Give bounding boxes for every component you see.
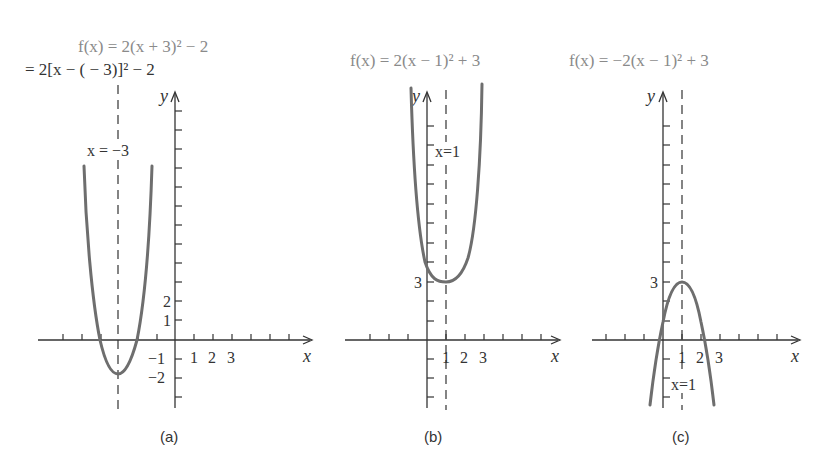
- x-ticks-b: [370, 334, 541, 340]
- equation-a-line2: = 2[x − ( − 3)]² − 2: [25, 60, 155, 79]
- y-tick-label-3: 3: [650, 274, 658, 291]
- equation-b: f(x) = 2(x − 1)² + 3: [350, 51, 480, 70]
- caption-b: (b): [424, 428, 442, 445]
- x-tick-label-2: 2: [208, 349, 216, 366]
- y-axis-label: y: [645, 86, 655, 106]
- y-ticks-c: [663, 126, 670, 397]
- x-tick-label-3: 3: [227, 349, 235, 366]
- x-tick-label-3: 3: [715, 349, 723, 366]
- axis-label-b: x=1: [435, 143, 460, 160]
- y-axis-label: y: [158, 86, 168, 106]
- panel-a: f(x) = 2(x + 3)² − 2 = 2[x − ( − 3)]² − …: [25, 37, 312, 445]
- y-tick-label-neg2: −2: [148, 369, 165, 386]
- parabola-figure: f(x) = 2(x + 3)² − 2 = 2[x − ( − 3)]² − …: [0, 0, 821, 476]
- y-ticks-b: [427, 126, 434, 397]
- x-tick-label-2: 2: [460, 349, 468, 366]
- panel-b: f(x) = 2(x − 1)² + 3: [345, 51, 560, 445]
- y-tick-label-2: 2: [163, 293, 171, 310]
- y-tick-label-neg1: −1: [148, 350, 165, 367]
- y-ticks-a: [175, 111, 182, 397]
- x-ticks-c: [606, 334, 777, 340]
- x-tick-label-1: 1: [190, 349, 198, 366]
- equation-c: f(x) = −2(x − 1)² + 3: [569, 51, 709, 70]
- x-tick-label-3: 3: [479, 349, 487, 366]
- x-tick-label-2: 2: [696, 349, 704, 366]
- y-tick-label-1: 1: [163, 312, 171, 329]
- caption-a: (a): [160, 428, 178, 445]
- x-axis-label: x: [302, 346, 311, 366]
- panel-c: f(x) = −2(x − 1)² + 3: [569, 51, 800, 445]
- axis-label-c: x=1: [671, 376, 696, 393]
- x-ticks-a: [63, 334, 289, 340]
- equation-a-line1: f(x) = 2(x + 3)² − 2: [78, 37, 208, 56]
- x-axis-label: x: [790, 346, 799, 366]
- axis-label-a: x = −3: [87, 142, 129, 159]
- caption-c: (c): [672, 428, 690, 445]
- y-tick-label-3: 3: [414, 274, 422, 291]
- x-axis-label: x: [550, 346, 559, 366]
